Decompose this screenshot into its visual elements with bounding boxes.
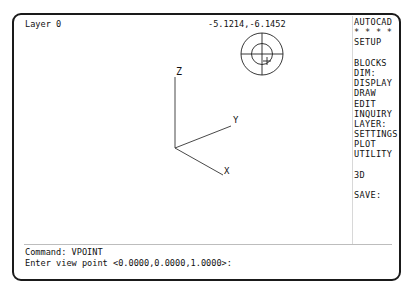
menu-item-dim[interactable]: DIM: [354, 68, 398, 78]
y-axis-line [175, 126, 231, 148]
menu-item-utility[interactable]: UTILITY [354, 149, 398, 159]
menu-item-draw[interactable]: DRAW [354, 88, 398, 98]
menu-item-display[interactable]: DISPLAY [354, 78, 398, 88]
menu-item-autocad[interactable]: AUTOCAD [354, 17, 398, 27]
side-menu-divider [352, 16, 353, 244]
menu-spacer [354, 180, 398, 190]
y-axis-label: Y [233, 115, 238, 125]
menu-item-setup[interactable]: SETUP [354, 37, 398, 47]
menu-item-3d[interactable]: 3D [354, 170, 398, 180]
axis-tripod-icon [175, 77, 231, 175]
menu-item-inquiry[interactable]: INQUIRY [354, 109, 398, 119]
menu-item-separator-stars[interactable]: * * * * [354, 27, 398, 37]
command-area-divider [24, 244, 392, 245]
command-prompt[interactable]: Enter view point <0.0000,0.0000,1.0000>: [25, 258, 232, 268]
menu-item-plot[interactable]: PLOT [354, 139, 398, 149]
menu-spacer [354, 48, 398, 58]
menu-item-settings[interactable]: SETTINGS [354, 129, 398, 139]
command-history-line: Command: VPOINT [25, 247, 103, 257]
menu-item-save[interactable]: SAVE: [354, 190, 398, 200]
menu-spacer [354, 160, 398, 170]
side-menu: AUTOCAD * * * * SETUP BLOCKS DIM: DISPLA… [354, 17, 398, 200]
x-axis-line [175, 148, 223, 175]
z-axis-label: Z [176, 67, 182, 77]
menu-item-edit[interactable]: EDIT [354, 99, 398, 109]
x-axis-label: X [224, 166, 229, 176]
compass-icon[interactable] [241, 33, 283, 75]
menu-item-layer[interactable]: LAYER: [354, 119, 398, 129]
menu-item-blocks[interactable]: BLOCKS [354, 58, 398, 68]
